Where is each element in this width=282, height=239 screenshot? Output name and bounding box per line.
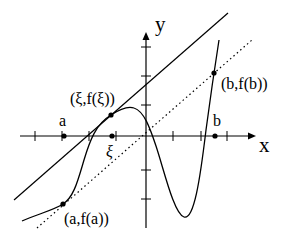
mean-value-theorem-diagram: x y a ξ b (ξ,f(ξ)) (a,f(a)) (b,f(b)) [0, 0, 282, 239]
b-label: b [213, 112, 221, 129]
point-a [61, 133, 66, 138]
y-axis-label: y [155, 12, 166, 36]
a-label: a [59, 112, 66, 129]
tangent-line [14, 13, 228, 200]
fb-label: (b,f(b)) [221, 75, 268, 93]
point-fb [211, 70, 216, 75]
secant-line [37, 40, 252, 228]
point-fxi [108, 112, 113, 117]
point-xi [109, 133, 114, 138]
function-curve [22, 40, 219, 221]
point-b [212, 133, 217, 138]
xi-axis-label: ξ [106, 143, 113, 160]
y-axis-arrow-icon [143, 32, 150, 40]
point-fa [60, 201, 65, 206]
x-axis-label: x [259, 133, 270, 157]
x-axis [20, 131, 256, 141]
fa-label: (a,f(a)) [64, 210, 109, 228]
x-axis-arrow-icon [248, 133, 256, 140]
fxi-label: (ξ,f(ξ)) [70, 90, 115, 108]
